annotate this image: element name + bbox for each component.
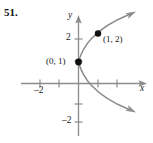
- y-axis: [75, 15, 81, 136]
- x-tick-label-negative-2: –2: [34, 85, 44, 95]
- point-marker-1-2: [95, 30, 101, 36]
- figure-container: 51.: [0, 0, 153, 143]
- point-label-1-2: (1, 2): [103, 34, 123, 44]
- point-marker-vertex: [75, 59, 82, 66]
- curve-lower-branch: [79, 62, 137, 113]
- point-label-vertex: (0, 1): [46, 56, 66, 66]
- y-tick-label-2: 2: [66, 32, 71, 42]
- x-axis-label: x: [140, 83, 144, 93]
- y-tick-label-negative-2: –2: [62, 115, 72, 125]
- coordinate-plot: [0, 0, 153, 143]
- y-axis-label: y: [68, 10, 72, 20]
